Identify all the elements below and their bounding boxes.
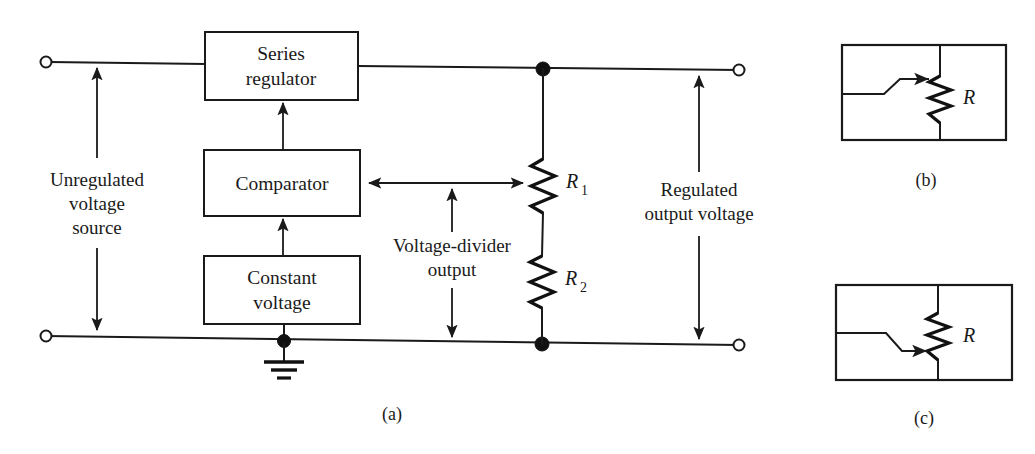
input-source-label-2: voltage (69, 193, 125, 214)
panel-a: Series regulator Comparator Constant vol… (41, 32, 754, 425)
block-constant-voltage-label-2: voltage (253, 292, 310, 313)
input-terminal-top (41, 57, 52, 68)
input-terminal-bottom (41, 331, 52, 342)
panel-b-wiper (842, 79, 928, 94)
panel-b-resistor-label: R (962, 86, 975, 108)
output-terminal-bottom (734, 340, 745, 351)
caption-panel-c: (c) (914, 408, 934, 429)
figure-canvas: Series regulator Comparator Constant vol… (0, 0, 1035, 454)
top-rail (50, 62, 738, 70)
panel-c-resistor-symbol (927, 313, 949, 360)
resistor-r1-subscript: 1 (581, 183, 588, 198)
panel-b: R (b) (842, 45, 1006, 191)
divider-output-label-2: output (428, 259, 477, 280)
divider-output-label-1: Voltage-divider (393, 235, 512, 256)
resistor-r2-label: R (564, 267, 577, 289)
panel-b-outline (842, 45, 1006, 140)
resistor-r2-subscript: 2 (580, 280, 587, 295)
ground-icon (264, 335, 304, 379)
block-series-regulator-label-1: Series (257, 43, 305, 64)
bottom-rail (46, 336, 738, 345)
wire-r1-to-r2 (542, 213, 543, 256)
panel-c: R (c) (836, 285, 1012, 429)
output-voltage-label-1: Regulated (660, 179, 738, 200)
panel-b-resistor-symbol (929, 76, 951, 123)
caption-panel-b: (b) (916, 170, 937, 191)
resistor-r2-symbol (530, 256, 554, 308)
resistor-r1-symbol (531, 159, 555, 213)
output-terminal-top (734, 65, 745, 76)
circuit-diagram: Series regulator Comparator Constant vol… (0, 0, 1035, 454)
input-source-label-3: source (72, 217, 122, 238)
panel-c-resistor-label: R (962, 324, 975, 346)
block-constant-voltage-label-1: Constant (247, 267, 317, 288)
output-voltage-label-2: output voltage (644, 203, 753, 224)
block-comparator-label-1: Comparator (235, 173, 329, 194)
panel-c-wiper (836, 333, 926, 351)
resistor-r1-label: R (565, 170, 578, 192)
caption-panel-a: (a) (382, 404, 402, 425)
block-series-regulator-label-2: regulator (246, 68, 317, 89)
input-source-label-1: Unregulated (50, 169, 144, 190)
